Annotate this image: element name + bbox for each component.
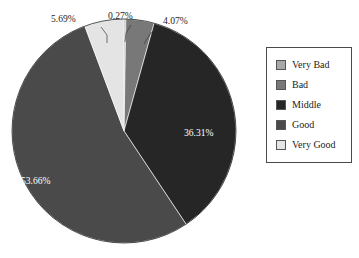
legend-item-middle[interactable]: Middle <box>267 95 351 115</box>
callout-label-bad: 4.07% <box>163 15 188 26</box>
legend-swatch-very-bad <box>276 60 286 70</box>
legend-item-good[interactable]: Good <box>267 115 351 135</box>
callout-label-very-bad: 0.27% <box>108 10 133 21</box>
legend-swatch-very-good <box>276 140 286 150</box>
legend-label-good: Good <box>292 120 314 130</box>
legend-item-bad[interactable]: Bad <box>267 75 351 95</box>
legend-label-bad: Bad <box>292 80 308 90</box>
legend-swatch-middle <box>276 100 286 110</box>
pie-chart-figure: 5.69% 0.27% 4.07% 36.31% 53.66% Very Bad… <box>0 0 359 258</box>
slice-label-good: 53.66% <box>21 175 51 186</box>
legend-item-very-bad[interactable]: Very Bad <box>267 55 351 75</box>
callout-label-very-good: 5.69% <box>51 13 76 24</box>
legend-label-middle: Middle <box>292 100 321 110</box>
legend-label-very-good: Very Good <box>292 140 336 150</box>
legend-swatch-bad <box>276 80 286 90</box>
legend-label-very-bad: Very Bad <box>292 60 330 70</box>
legend-box: Very Bad Bad Middle Good Very Good <box>266 47 352 163</box>
legend-swatch-good <box>276 120 286 130</box>
slice-label-middle: 36.31% <box>184 127 214 138</box>
legend-item-very-good[interactable]: Very Good <box>267 135 351 155</box>
